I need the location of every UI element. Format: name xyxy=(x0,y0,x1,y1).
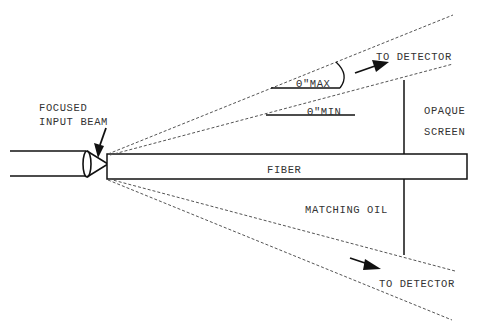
angle-arc-icon xyxy=(336,62,344,88)
scattered-rays-top xyxy=(108,15,453,155)
to-detector-top-label: TO DETECTOR xyxy=(376,52,452,63)
arrow-bottom-icon xyxy=(350,258,381,270)
lens-icon xyxy=(83,151,91,177)
input-beam xyxy=(10,151,108,177)
matching-oil-label: MATCHING OIL xyxy=(305,205,388,216)
to-detector-bottom-label: TO DETECTOR xyxy=(379,279,455,290)
theta-min-label: Θ"MIN xyxy=(307,107,342,118)
scattered-rays-bottom xyxy=(108,179,455,320)
focused-input-beam-label-1: FOCUSED xyxy=(39,103,87,114)
opaque-screen-label-1: OPAQUE xyxy=(424,106,465,117)
fiber-label: FIBER xyxy=(267,165,302,176)
theta-max-label: Θ"MAX xyxy=(296,79,331,90)
focused-input-beam-label-2: INPUT BEAM xyxy=(39,117,108,128)
input-arrow-icon xyxy=(94,128,106,158)
opaque-screen-label-2: SCREEN xyxy=(424,127,465,138)
